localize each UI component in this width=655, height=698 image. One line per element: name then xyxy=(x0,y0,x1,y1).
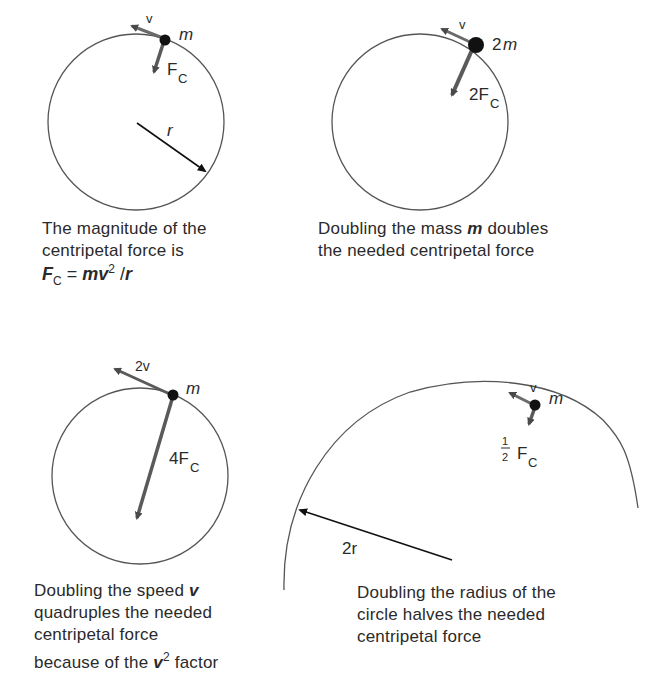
velocity-arrow xyxy=(442,29,470,42)
caption-variable: v xyxy=(153,653,163,672)
radius-coefficient: 2r xyxy=(342,539,357,558)
force-subscript: C xyxy=(178,71,187,86)
force-label: F xyxy=(167,60,177,79)
formula-exponent: 2 xyxy=(108,262,115,276)
formula-r: r xyxy=(125,264,132,284)
caption-baseline: The magnitude of the centripetal force i… xyxy=(42,218,207,262)
caption-double-radius: Doubling the radius of the circle halves… xyxy=(357,582,556,648)
mass-coefficient: 2 xyxy=(492,35,501,54)
mass-dot xyxy=(168,390,179,401)
caption-line: centripetal force xyxy=(34,624,218,646)
force-label: 2F xyxy=(469,85,489,104)
caption-line: Doubling the radius of the xyxy=(357,582,556,604)
orbit-circle xyxy=(332,34,508,210)
orbit-circle xyxy=(48,34,224,210)
caption-text: Doubling the speed xyxy=(34,581,189,600)
mass-dot xyxy=(468,37,484,53)
formula-lhs-sub: C xyxy=(53,274,62,288)
orbit-circle xyxy=(52,388,228,564)
caption-exponent: 2 xyxy=(163,650,170,664)
mass-dot xyxy=(160,35,171,46)
force-arrow xyxy=(137,396,173,518)
panel-double-radius: v m 1 2 F C 2r xyxy=(284,380,638,590)
caption-double-mass: Doubling the mass m doubles the needed c… xyxy=(318,218,548,262)
force-subscript: C xyxy=(490,96,499,111)
caption-line: circle halves the needed xyxy=(357,604,556,626)
force-arrow xyxy=(154,41,164,72)
caption-text: Doubling the mass xyxy=(318,219,467,238)
velocity-label: v xyxy=(530,380,537,395)
radius-arrow xyxy=(300,510,452,560)
mass-label: m xyxy=(549,389,563,408)
caption-text: because of the xyxy=(34,653,153,672)
caption-variable: v xyxy=(189,581,199,600)
panel-double-speed: 2v m 4F C xyxy=(52,358,228,564)
force-subscript: C xyxy=(190,460,199,475)
velocity-arrow xyxy=(132,26,163,38)
caption-line: Doubling the speed v xyxy=(34,580,218,602)
panel-baseline: v m F C r xyxy=(48,11,224,210)
caption-text: doubles xyxy=(482,219,548,238)
mass-label: m xyxy=(179,25,193,44)
fraction-numerator: 1 xyxy=(502,435,508,447)
caption-line: Doubling the mass m doubles xyxy=(318,218,548,240)
formula: FC = mv2 /r xyxy=(42,262,132,288)
force-label: F xyxy=(517,444,527,463)
force-subscript: C xyxy=(528,455,537,470)
velocity-label: v xyxy=(459,17,466,32)
caption-line: The magnitude of the xyxy=(42,218,207,240)
caption-line: the needed centripetal force xyxy=(318,240,548,262)
formula-slash: / xyxy=(115,264,125,284)
velocity-label: 2v xyxy=(135,358,150,374)
radius-label: r xyxy=(167,121,174,140)
formula-mv: mv xyxy=(82,264,108,284)
caption-text: factor xyxy=(170,653,219,672)
fraction-denominator: 2 xyxy=(502,451,508,463)
formula-lhs: F xyxy=(42,264,53,284)
caption-line: centripetal force xyxy=(357,626,556,648)
caption-line: because of the v2 factor xyxy=(34,646,218,674)
panel-double-mass: v 2 m 2F C xyxy=(332,17,517,210)
caption-variable: m xyxy=(467,219,482,238)
mass-dot xyxy=(530,400,541,411)
velocity-label: v xyxy=(146,11,153,26)
orbit-arc xyxy=(284,381,638,590)
caption-double-speed: Doubling the speed v quadruples the need… xyxy=(34,580,218,674)
formula-equals: = xyxy=(62,264,83,284)
caption-line: centripetal force is xyxy=(42,240,207,262)
mass-label: m xyxy=(503,35,517,54)
force-label: 4F xyxy=(169,449,189,468)
caption-line: quadruples the needed xyxy=(34,602,218,624)
mass-label: m xyxy=(186,379,200,398)
